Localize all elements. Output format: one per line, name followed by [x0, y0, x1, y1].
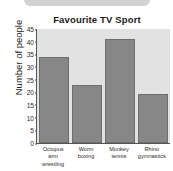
bar-slot [39, 29, 69, 143]
plot-area: 454035302520151050 [36, 29, 170, 144]
y-tick-45: 45 [18, 26, 37, 33]
y-tick-20: 20 [18, 89, 37, 96]
y-tick-35: 35 [18, 51, 37, 58]
x-tick-label-line2: gymnastics [137, 153, 167, 160]
bar [105, 39, 135, 143]
x-tick-label-line2: boxing [71, 153, 101, 160]
x-tick-label-line2: arm wrestling [38, 153, 68, 168]
bar-slot [72, 29, 102, 143]
bar [72, 85, 102, 143]
y-tick-15: 15 [18, 101, 37, 108]
bar [39, 57, 69, 143]
x-tick-label-line1: Rhino [145, 146, 160, 152]
x-tick-label-line1: Octopus [43, 146, 64, 152]
y-tick-30: 30 [18, 63, 37, 70]
y-tick-40: 40 [18, 38, 37, 45]
y-tick-10: 10 [18, 114, 37, 121]
y-tick-25: 25 [18, 76, 37, 83]
x-tick-label-line2: tennis [104, 153, 134, 160]
x-tick-label-line1: Monkey [109, 146, 129, 152]
bar-series [37, 29, 170, 143]
bar-slot [105, 29, 135, 143]
x-tick-label: Monkeytennis [104, 146, 134, 168]
x-tick-label: Rhinogymnastics [137, 146, 167, 168]
y-tick-5: 5 [18, 127, 37, 134]
bar-slot [138, 29, 168, 143]
x-tick-label: Wormboxing [71, 146, 101, 168]
y-tick-0: 0 [18, 140, 37, 147]
cropped-rounded-box [24, 0, 150, 6]
x-axis-tick-labels: Octopusarm wrestlingWormboxingMonkeytenn… [36, 146, 169, 168]
bar [138, 94, 168, 143]
x-tick-label: Octopusarm wrestling [38, 146, 68, 168]
bar-chart-figure: Favourite TV Sport Number of people 4540… [0, 0, 173, 171]
chart-title: Favourite TV Sport [24, 14, 170, 25]
x-tick-label-line1: Worm [79, 146, 94, 152]
